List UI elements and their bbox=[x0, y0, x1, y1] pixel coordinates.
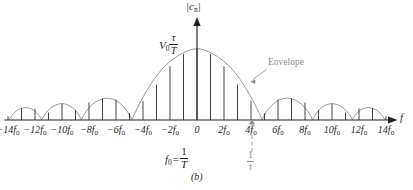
x-tick-label: 8f0 bbox=[299, 125, 310, 137]
f0-frac-denominator: T bbox=[180, 159, 188, 171]
x-tick-label-subscript: 0 bbox=[280, 129, 284, 137]
x-tick-label: 10f0 bbox=[324, 125, 340, 137]
y-axis-label: |cn| bbox=[186, 1, 201, 14]
inv-tau-label: 1τ bbox=[247, 150, 254, 172]
x-tick-label-text: −14f bbox=[0, 124, 16, 135]
envelope-label: Envelope bbox=[268, 58, 304, 68]
x-tick-label-text: 2f bbox=[218, 124, 226, 135]
x-tick-label-subscript: 0 bbox=[70, 129, 74, 137]
x-tick-label-text: −12f bbox=[23, 124, 43, 135]
amplitude-frac-denominator: T bbox=[169, 45, 177, 57]
amplitude-frac-numerator: τ bbox=[169, 32, 177, 45]
x-tick-label: 12f0 bbox=[351, 125, 367, 137]
x-tick-label-subscript: 0 bbox=[364, 129, 368, 137]
x-tick-label-subscript: 0 bbox=[176, 129, 180, 137]
x-tick-label-subscript: 0 bbox=[226, 129, 230, 137]
x-axis bbox=[5, 116, 398, 123]
x-tick-label-text: 6f bbox=[272, 124, 280, 135]
x-tick-label: 2f0 bbox=[218, 125, 229, 137]
inv-tau-numerator: 1 bbox=[247, 150, 254, 162]
figure-caption: (b) bbox=[191, 172, 203, 182]
x-tick-label-subscript: 0 bbox=[253, 129, 257, 137]
x-tick-label-subscript: 0 bbox=[337, 129, 341, 137]
x-tick-label: −6f0 bbox=[107, 125, 125, 137]
f0-frac-numerator: 1 bbox=[180, 146, 188, 159]
x-tick-label: −4f0 bbox=[134, 125, 152, 137]
x-tick-label-text: 10f bbox=[324, 124, 337, 135]
envelope-leader-arrow bbox=[250, 70, 266, 84]
x-tick-label: −2f0 bbox=[161, 125, 179, 137]
x-tick-label-subscript: 0 bbox=[43, 129, 47, 137]
x-tick-label: 14f0 bbox=[378, 125, 394, 137]
x-tick-label-text: 14f bbox=[378, 124, 391, 135]
x-tick-label: −14f0 bbox=[0, 125, 20, 137]
x-tick-label-subscript: 0 bbox=[95, 129, 99, 137]
x-tick-label: −10f0 bbox=[50, 125, 73, 137]
y-axis-arrowhead bbox=[193, 17, 200, 26]
x-tick-label-subscript: 0 bbox=[307, 129, 311, 137]
x-tick-label: −12f0 bbox=[23, 125, 46, 137]
spectrum-plot-svg bbox=[0, 0, 413, 190]
amplitude-label: V0τT bbox=[159, 32, 178, 56]
inv-tau-denominator: τ bbox=[247, 162, 254, 173]
x-tick-label: 4f0 bbox=[245, 125, 256, 137]
x-tick-label-text: −2f bbox=[161, 124, 176, 135]
x-tick-label-text: 8f bbox=[299, 124, 307, 135]
x-tick-label-text: −10f bbox=[50, 124, 70, 135]
x-axis-arrowhead bbox=[388, 116, 398, 123]
x-axis-label: f bbox=[400, 112, 403, 123]
x-tick-label-text: −4f bbox=[134, 124, 149, 135]
x-tick-label: 0 bbox=[195, 125, 200, 135]
x-tick-label-subscript: 0 bbox=[391, 129, 395, 137]
x-tick-label-subscript: 0 bbox=[149, 129, 153, 137]
x-tick-label: −8f0 bbox=[80, 125, 98, 137]
f0-relation-label: f0=1T bbox=[165, 146, 188, 170]
x-tick-label-subscript: 0 bbox=[16, 129, 20, 137]
x-tick-label-text: 0 bbox=[195, 124, 200, 135]
x-tick-label: 6f0 bbox=[272, 125, 283, 137]
x-tick-label-text: 12f bbox=[351, 124, 364, 135]
x-tick-label-text: 4f bbox=[245, 124, 253, 135]
line-spectrum-figure: |cn| f V0τT Envelope f0=1T 1τ (b) −14f0−… bbox=[0, 0, 413, 190]
x-tick-label-subscript: 0 bbox=[122, 129, 126, 137]
x-tick-label-text: −6f bbox=[107, 124, 122, 135]
x-tick-label-text: −8f bbox=[80, 124, 95, 135]
y-axis bbox=[193, 17, 200, 120]
